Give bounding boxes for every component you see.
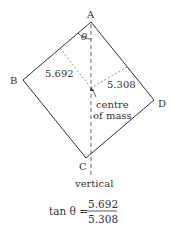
vertex-d-label: D [158, 98, 166, 109]
distance-label-ab: 5.692 [45, 68, 74, 79]
equation-numerator: 5.692 [88, 198, 118, 210]
theta-label: θ [81, 31, 87, 42]
equation-lhs: tan θ = [49, 205, 88, 217]
vertex-b-label: B [10, 75, 17, 86]
lamina-diagram: A B C D θ 5.692 5.308 centre of mass ver… [0, 0, 173, 228]
vertex-c-label: C [79, 161, 87, 172]
equation-denominator: 5.308 [88, 213, 118, 225]
distance-label-ad: 5.308 [107, 79, 136, 90]
centre-of-mass-label-1: centre [96, 99, 129, 110]
lamina-outline [23, 22, 154, 158]
vertical-label: vertical [74, 178, 113, 189]
centre-of-mass-label-2: of mass [93, 110, 132, 121]
vertex-a-label: A [86, 9, 95, 20]
